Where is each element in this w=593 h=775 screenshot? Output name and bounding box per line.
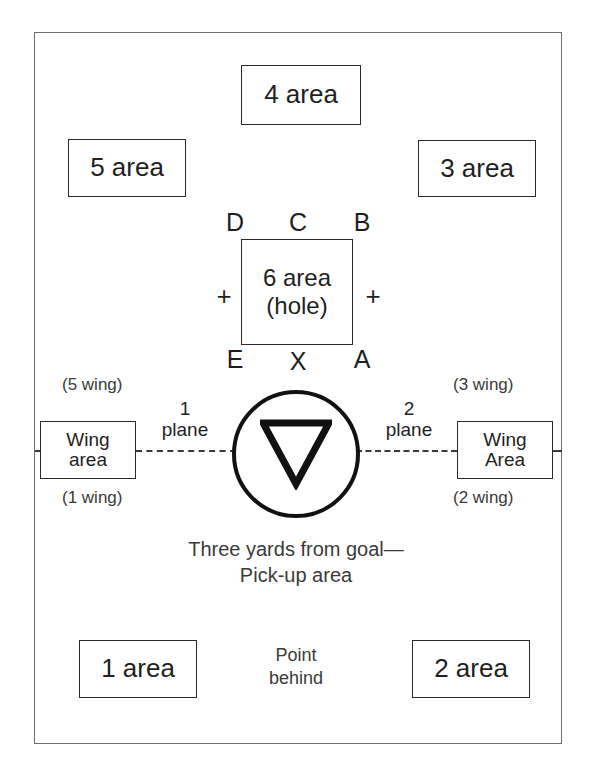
plus-marker-right-icon: +	[363, 283, 383, 309]
plane-line-left-inner	[136, 450, 236, 452]
wing-note-1: (1 wing)	[62, 489, 122, 506]
area-box-1: 1 area	[79, 640, 197, 698]
area-box-4: 4 area	[241, 65, 361, 125]
plane-1-word: plane	[150, 420, 220, 441]
wing-area-box-right: Wing Area	[457, 421, 553, 479]
hole-position-a: A	[349, 347, 375, 372]
area-box-4-label: 4 area	[264, 81, 338, 108]
area-box-3-label: 3 area	[440, 155, 514, 182]
hole-position-b: B	[349, 210, 375, 235]
wing-note-5: (5 wing)	[62, 376, 122, 393]
wing-note-3: (3 wing)	[453, 376, 513, 393]
plane-1-number: 1	[150, 399, 220, 420]
plane-label-1: 1 plane	[150, 399, 220, 440]
area-box-5: 5 area	[68, 139, 186, 197]
plane-line-right-inner	[356, 450, 457, 452]
area-box-6-hole: 6 area (hole)	[241, 239, 353, 345]
area-box-6-hole-label: 6 area (hole)	[263, 264, 331, 321]
plane-2-word: plane	[374, 420, 444, 441]
area-box-5-label: 5 area	[90, 154, 164, 181]
pickup-area-caption: Three yards from goal— Pick-up area	[126, 536, 466, 588]
area-box-3: 3 area	[418, 140, 536, 197]
wing-note-2: (2 wing)	[453, 489, 513, 506]
hole-position-c: C	[285, 210, 311, 235]
area-box-1-label: 1 area	[101, 655, 175, 682]
area-box-2: 2 area	[412, 640, 530, 698]
wing-area-box-left: Wing area	[40, 421, 136, 479]
triangle-down-icon	[260, 418, 332, 490]
area-box-2-label: 2 area	[434, 655, 508, 682]
hole-position-e: E	[222, 347, 248, 372]
wing-area-right-label: Wing Area	[483, 430, 526, 470]
plane-2-number: 2	[374, 399, 444, 420]
plane-label-2: 2 plane	[374, 399, 444, 440]
hole-position-x: X	[285, 349, 311, 374]
plus-marker-left-icon: +	[214, 283, 234, 309]
wing-area-left-label: Wing area	[66, 430, 109, 470]
point-behind-label: Point behind	[236, 644, 356, 691]
diagram-canvas: 4 area 5 area 3 area 1 area 2 area 6 are…	[0, 0, 593, 775]
plane-line-right-outer	[553, 450, 562, 452]
hole-position-d: D	[222, 210, 248, 235]
